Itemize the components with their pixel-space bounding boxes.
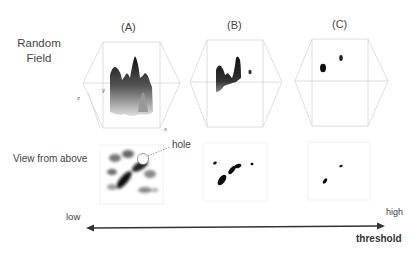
diagram-graphics: z y x: [0, 0, 415, 258]
threshold-arrow: [86, 223, 385, 232]
top-view-a: [100, 145, 170, 204]
panel-a-surface: [110, 56, 153, 116]
svg-text:z: z: [77, 95, 80, 101]
threshold-low-label: low: [66, 211, 80, 222]
hole-annotation: hole: [172, 139, 191, 150]
panel-c-surface: [320, 55, 343, 72]
top-view-b: [203, 143, 267, 201]
panel-c-3d-box: [295, 39, 388, 126]
threshold-high-label: high: [386, 207, 403, 217]
svg-text:x: x: [164, 126, 167, 132]
svg-text:y: y: [102, 87, 105, 93]
panel-b-surface: [216, 56, 252, 92]
panel-b-3d-box: [190, 40, 282, 127]
threshold-axis-label: threshold: [356, 233, 402, 244]
top-view-c: [308, 142, 370, 200]
